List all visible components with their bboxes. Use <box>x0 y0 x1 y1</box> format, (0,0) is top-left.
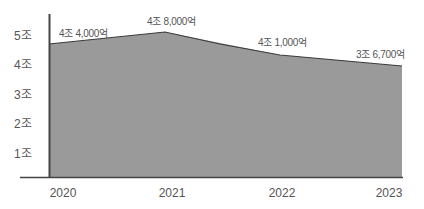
x-tick-label: 2022 <box>269 186 296 200</box>
data-label: 4조 1,000억 <box>258 34 307 49</box>
area-fill <box>49 32 402 177</box>
y-tick-label: 3조 <box>14 85 38 102</box>
x-tick-label: 2020 <box>50 186 77 200</box>
y-tick-label: 2조 <box>14 114 38 131</box>
y-tick-label: 5조 <box>14 26 38 43</box>
data-label: 3조 6,700억 <box>356 46 405 61</box>
y-tick-label: 1조 <box>14 144 38 161</box>
data-label: 4조 4,000억 <box>59 25 108 40</box>
x-tick-label: 2023 <box>376 186 403 200</box>
x-tick-label: 2021 <box>159 186 186 200</box>
y-tick-label: 4조 <box>14 55 38 72</box>
data-label: 4조 8,000억 <box>147 13 196 28</box>
